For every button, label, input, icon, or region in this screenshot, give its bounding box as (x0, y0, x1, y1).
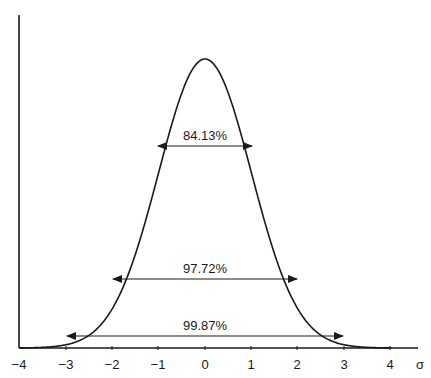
tick-label: −3 (59, 357, 74, 372)
tick-label: −4 (12, 357, 27, 372)
x-tick-labels: −4 −3 −2 −1 0 1 2 3 4 σ (12, 357, 424, 372)
range-label-1sigma: 84.13% (183, 128, 228, 143)
tick-label: 2 (293, 357, 300, 372)
tick-label: −2 (105, 357, 120, 372)
tick-label: 4 (386, 357, 393, 372)
range-label-3sigma: 99.87% (183, 318, 228, 333)
x-axis-unit-label: σ (416, 357, 424, 372)
tick-label: −1 (151, 357, 166, 372)
tick-label: 1 (247, 357, 254, 372)
normal-distribution-chart: −4 −3 −2 −1 0 1 2 3 4 σ 84.13% 97.72% 99… (0, 0, 431, 378)
range-label-2sigma: 97.72% (183, 261, 228, 276)
tick-label: 0 (201, 357, 208, 372)
tick-label: 3 (340, 357, 347, 372)
normal-curve (19, 59, 390, 348)
